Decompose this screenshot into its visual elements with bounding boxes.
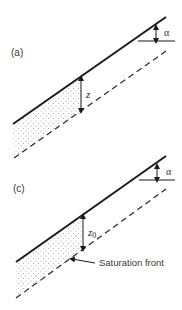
panel-a: α z (a) <box>11 17 175 158</box>
angle-alpha-label: α <box>164 27 170 38</box>
wetting-front-dashed-line <box>14 51 166 158</box>
angle-alpha-label: α <box>166 166 172 177</box>
ground-surface-line <box>16 156 166 262</box>
saturation-front-label: Saturation front <box>99 257 164 268</box>
panel-label-a: (a) <box>11 47 23 58</box>
panel-label-c: (c) <box>13 183 25 194</box>
depth-z-label: z <box>85 88 91 100</box>
saturation-front-pointer-icon <box>72 259 95 263</box>
depth-z0-subscript: 0 <box>92 231 96 240</box>
ground-surface-line <box>13 17 166 124</box>
slope-diagram: α z (a) α z0 Saturation front (c) <box>0 0 182 310</box>
depth-z0-label: z0 <box>87 226 96 240</box>
panel-c: α z0 Saturation front (c) <box>13 156 175 298</box>
